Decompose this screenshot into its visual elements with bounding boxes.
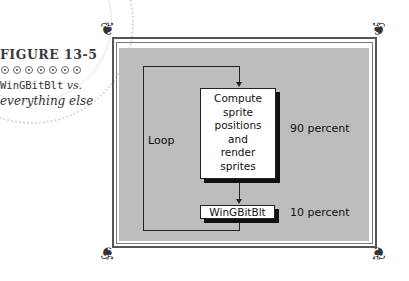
caption-dots (1, 66, 81, 74)
dot-icon (61, 66, 69, 74)
figure-title-line2: everything else (0, 94, 93, 108)
compute-line: render (200, 146, 276, 160)
wing-share-label: 10 percent (290, 206, 350, 219)
compute-line: sprite (200, 106, 276, 120)
flourish-bottom-right-icon: ❦ (371, 244, 386, 262)
flourish-top-left-icon: ❦ (100, 20, 115, 38)
compute-line: sprites (200, 160, 276, 174)
flourish-top-right-icon: ❦ (371, 20, 386, 38)
figure-label: FIGURE 13-5 (0, 47, 97, 62)
flourish-bottom-left-icon: ❦ (100, 244, 115, 262)
compute-line: Compute (200, 92, 276, 106)
dot-icon (13, 66, 21, 74)
loop-line-bottom (143, 230, 240, 231)
loop-label: Loop (148, 134, 174, 147)
figure-title-rest: vs. (63, 79, 82, 92)
compute-line: positions (200, 119, 276, 133)
wingbitblt-label: WinGBitBlt (200, 205, 275, 219)
compute-line: and (200, 133, 276, 147)
dot-icon (37, 66, 45, 74)
dot-icon (49, 66, 57, 74)
figure-title-line1: WinGBitBlt vs. (0, 79, 82, 92)
compute-share-label: 90 percent (290, 122, 350, 135)
loop-line-left (143, 66, 144, 231)
dot-icon (73, 66, 81, 74)
dot-icon (25, 66, 33, 74)
figure-title-mono: WinGBitBlt (0, 79, 63, 91)
compute-box-text: Compute sprite positions and render spri… (200, 92, 276, 173)
arrow-down-icon (236, 199, 242, 204)
loop-line-top (143, 66, 240, 67)
arrow-down-icon (236, 82, 242, 87)
dot-icon (1, 66, 9, 74)
